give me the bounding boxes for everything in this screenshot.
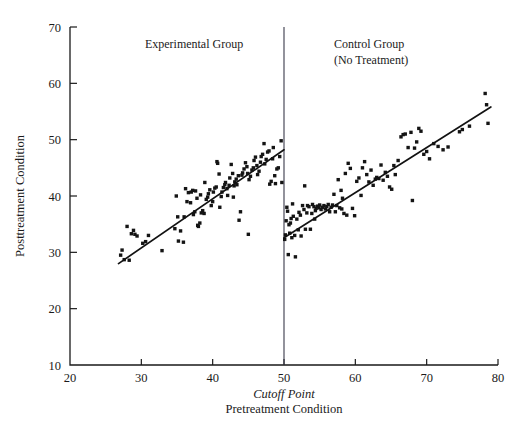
data-point bbox=[274, 182, 277, 185]
annotation-label: (No Treatment) bbox=[334, 53, 408, 67]
chart-canvas: 20304050607080 10203040506070 Experiment… bbox=[0, 0, 525, 440]
data-points-group bbox=[119, 92, 490, 262]
data-point bbox=[425, 150, 428, 153]
data-point bbox=[485, 103, 488, 106]
data-point bbox=[278, 155, 281, 158]
y-tick-label: 40 bbox=[49, 190, 62, 204]
data-point bbox=[286, 210, 289, 213]
data-point bbox=[261, 153, 264, 156]
data-point bbox=[184, 187, 187, 190]
data-point bbox=[215, 185, 218, 188]
data-point bbox=[436, 145, 439, 148]
data-point bbox=[125, 225, 128, 228]
data-point bbox=[279, 139, 282, 142]
data-point bbox=[411, 199, 414, 202]
x-tick-label: 50 bbox=[278, 371, 291, 385]
x-tick-label: 60 bbox=[349, 371, 362, 385]
data-point bbox=[160, 249, 163, 252]
data-point bbox=[269, 180, 272, 183]
data-point bbox=[272, 146, 275, 149]
data-point bbox=[277, 166, 280, 169]
data-point bbox=[257, 170, 260, 173]
data-point bbox=[267, 149, 270, 152]
data-point bbox=[247, 233, 250, 236]
data-point bbox=[147, 234, 150, 237]
data-point bbox=[357, 176, 360, 179]
data-point bbox=[347, 162, 350, 165]
data-point bbox=[198, 221, 201, 224]
y-tick-label: 50 bbox=[49, 133, 62, 147]
x-axis-ticks bbox=[141, 359, 498, 365]
x-tick-label: 40 bbox=[206, 371, 219, 385]
data-point bbox=[132, 229, 135, 232]
data-point bbox=[135, 234, 138, 237]
data-point bbox=[179, 229, 182, 232]
x-axis-title: Pretreatment Condition bbox=[226, 402, 344, 416]
data-point bbox=[483, 92, 486, 95]
data-point bbox=[337, 178, 340, 181]
data-point bbox=[237, 219, 240, 222]
y-tick-label: 70 bbox=[49, 21, 62, 35]
data-point bbox=[369, 168, 372, 171]
data-point bbox=[256, 173, 259, 176]
data-point bbox=[252, 159, 255, 162]
data-point bbox=[302, 208, 305, 211]
data-point bbox=[332, 193, 335, 196]
data-point bbox=[128, 259, 131, 262]
data-point bbox=[217, 172, 220, 175]
data-point bbox=[237, 174, 240, 177]
y-tick-labels: 10203040506070 bbox=[49, 21, 62, 373]
data-point bbox=[244, 161, 247, 164]
data-point bbox=[189, 201, 192, 204]
data-point bbox=[230, 163, 233, 166]
y-tick-label: 30 bbox=[49, 246, 62, 260]
x-tick-label: 30 bbox=[135, 371, 148, 385]
data-point bbox=[287, 223, 290, 226]
data-point bbox=[409, 131, 412, 134]
data-point bbox=[197, 225, 200, 228]
data-point bbox=[344, 172, 347, 175]
x-tick-label: 20 bbox=[64, 371, 77, 385]
x-tick-label: 70 bbox=[420, 371, 433, 385]
data-point bbox=[334, 210, 337, 213]
data-point bbox=[415, 140, 418, 143]
y-tick-label: 10 bbox=[49, 359, 62, 373]
data-point bbox=[220, 195, 223, 198]
data-point bbox=[199, 193, 202, 196]
data-point bbox=[486, 122, 489, 125]
y-axis-ticks bbox=[70, 27, 77, 309]
data-point bbox=[177, 239, 180, 242]
data-point bbox=[365, 173, 368, 176]
data-point bbox=[252, 166, 255, 169]
data-point bbox=[212, 190, 215, 193]
data-point bbox=[299, 234, 302, 237]
data-point bbox=[273, 174, 276, 177]
data-point bbox=[361, 166, 364, 169]
data-point bbox=[245, 165, 248, 168]
data-point bbox=[349, 167, 352, 170]
data-point bbox=[284, 219, 287, 222]
data-point bbox=[428, 157, 431, 160]
data-point bbox=[363, 160, 366, 163]
data-point bbox=[235, 177, 238, 180]
data-point bbox=[259, 161, 262, 164]
series-1 bbox=[283, 92, 490, 259]
data-point bbox=[216, 162, 219, 165]
data-point bbox=[175, 194, 178, 197]
data-point bbox=[292, 215, 295, 218]
data-point bbox=[305, 211, 308, 214]
annotation-label: Control Group bbox=[334, 37, 404, 51]
data-point bbox=[340, 207, 343, 210]
data-point bbox=[206, 195, 209, 198]
regression-line bbox=[119, 150, 284, 264]
data-point bbox=[254, 155, 257, 158]
data-point bbox=[351, 207, 354, 210]
data-point bbox=[396, 159, 399, 162]
scatter-chart: 20304050607080 10203040506070 Experiment… bbox=[0, 0, 525, 440]
data-point bbox=[303, 184, 306, 187]
cutoff-point-label: Cutoff Point bbox=[253, 387, 315, 401]
data-point bbox=[287, 253, 290, 256]
data-point bbox=[247, 178, 250, 181]
data-point bbox=[294, 255, 297, 258]
data-point bbox=[359, 194, 362, 197]
